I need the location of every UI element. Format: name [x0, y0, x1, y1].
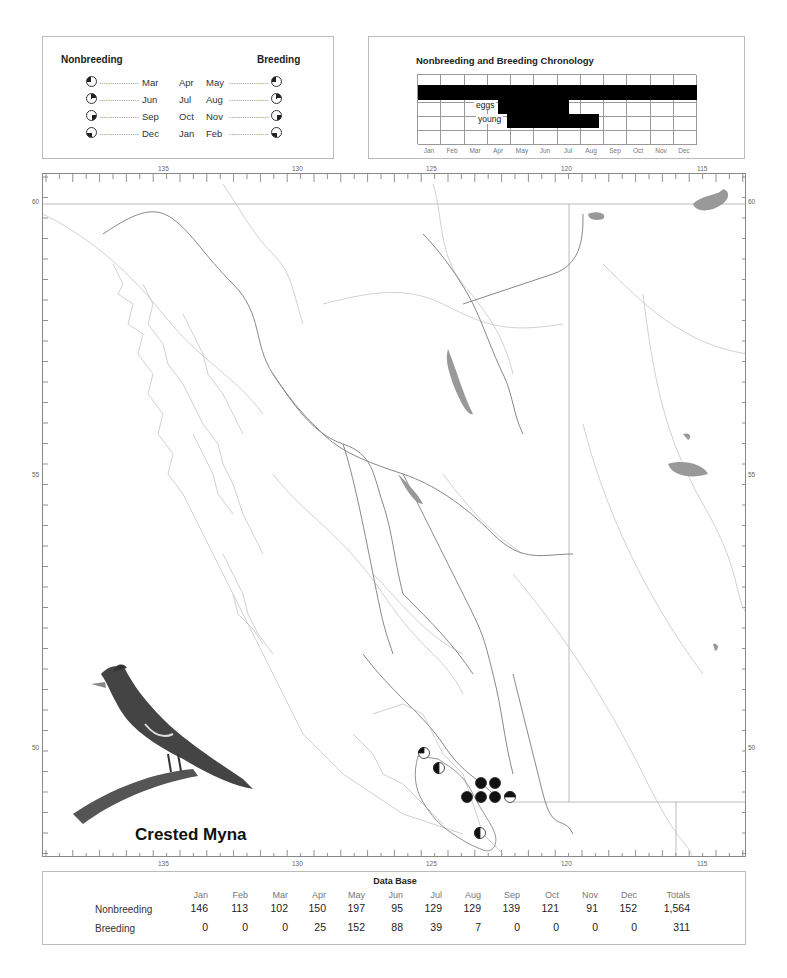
grid-cell: [674, 117, 697, 131]
eggs-bar: [498, 100, 569, 114]
grid-cell: [627, 131, 650, 145]
legend-row: .................. Jun Jul Aug .........…: [43, 92, 333, 108]
latitude-label: 55: [32, 471, 39, 478]
young-label: young: [476, 114, 503, 124]
chronology-grid: eggs young: [417, 74, 696, 144]
chronology-chart: Nonbreeding and Breeding Chronology eggs…: [368, 36, 745, 159]
grid-cell: [534, 131, 557, 145]
grid-cell: [651, 131, 674, 145]
longitude-label: 125: [426, 165, 437, 172]
grid-cell: [651, 117, 674, 131]
pie-top-right-icon: [271, 93, 282, 104]
nonbreeding-title: Nonbreeding: [61, 54, 123, 65]
data-base-table: Data Base Nonbreeding Breeding Jan Feb M…: [42, 871, 746, 945]
pie-bottom-left-icon: [271, 127, 282, 138]
row-label-breeding: Breeding: [95, 923, 135, 934]
longitude-label: 135: [158, 165, 169, 172]
latitude-label: 50: [748, 744, 755, 751]
legend-right-month: May: [206, 77, 224, 88]
legend-left-month: Sep: [142, 111, 159, 122]
longitude-label: 115: [697, 165, 707, 172]
grid-cell: [441, 131, 464, 145]
grid-cell: [465, 131, 488, 145]
longitude-label: 120: [561, 165, 572, 172]
legend-left-month: Mar: [142, 77, 158, 88]
map-graphic: [43, 174, 746, 857]
grid-cell: [604, 117, 627, 131]
grid-cell: [604, 103, 627, 117]
legend-right-month: Feb: [206, 128, 222, 139]
occurrence-symbols: [419, 748, 516, 839]
legend-right-month: Nov: [206, 111, 223, 122]
season-legend: Nonbreeding Breeding .................. …: [42, 36, 334, 159]
legend-center-month: Apr: [179, 77, 194, 88]
pie-bottom-right-icon: [271, 110, 282, 121]
legend-left-month: Dec: [142, 128, 159, 139]
grid-cell: [558, 131, 581, 145]
species-name: Crested Myna: [135, 825, 246, 845]
legend-right-month: Aug: [206, 94, 223, 105]
legend-center-month: Jul: [179, 94, 191, 105]
grid-cell: [674, 131, 697, 145]
longitude-label: 125: [426, 860, 437, 867]
grid-cell: [651, 103, 674, 117]
grid-cell: [581, 131, 604, 145]
grid-cell: [488, 131, 511, 145]
latitude-label: 60: [32, 198, 39, 205]
latitude-label: 55: [748, 471, 755, 478]
grid-cell: [418, 117, 441, 131]
row-label-nonbreeding: Nonbreeding: [95, 904, 152, 915]
grid-cell: [627, 117, 650, 131]
legend-center-month: Oct: [179, 111, 194, 122]
longitude-label: 115: [697, 860, 707, 867]
latitude-label: 50: [32, 744, 39, 751]
longitude-label: 120: [561, 860, 572, 867]
grid-cell: [441, 103, 464, 117]
pie-bottom-right-icon: [86, 110, 97, 121]
pie-top-left-icon: [86, 76, 97, 87]
legend-center-month: Jan: [179, 128, 194, 139]
young-bar: [507, 114, 599, 128]
chronology-title: Nonbreeding and Breeding Chronology: [416, 55, 594, 66]
grid-cell: [674, 103, 697, 117]
grid-cell: [441, 117, 464, 131]
longitude-label: 130: [292, 165, 303, 172]
grid-cell: [418, 131, 441, 145]
legend-row: .................. Sep Oct Nov .........…: [43, 109, 333, 125]
grid-cell: [418, 103, 441, 117]
distribution-map: [42, 173, 746, 857]
chronology-month-axis: Jan Feb Mar Apr May Jun Jul Aug Sep Oct …: [417, 147, 696, 157]
map-ticks: [43, 174, 746, 857]
latitude-label: 60: [748, 198, 755, 205]
legend-row: .................. Mar Apr May .........…: [43, 75, 333, 91]
nonbreeding-bar: [418, 85, 697, 100]
grid-cell: [627, 103, 650, 117]
data-base-title: Data Base: [43, 876, 747, 886]
grid-cell: [511, 131, 534, 145]
legend-left-month: Jun: [142, 94, 157, 105]
legend-row: .................. Dec Jan Feb .........…: [43, 126, 333, 142]
bird-illustration: [73, 665, 253, 824]
longitude-label: 135: [158, 860, 169, 867]
grid-cell: [604, 131, 627, 145]
longitude-label: 130: [292, 860, 303, 867]
pie-top-right-icon: [86, 93, 97, 104]
pie-bottom-left-icon: [86, 127, 97, 138]
eggs-label: eggs: [474, 100, 496, 110]
pie-top-left-icon: [271, 76, 282, 87]
breeding-title: Breeding: [257, 54, 300, 65]
